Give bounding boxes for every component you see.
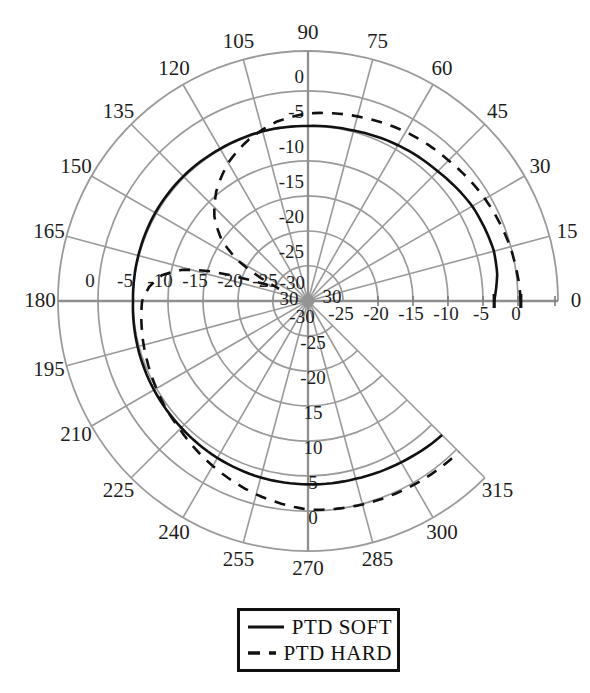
angle-label-240: 240	[158, 520, 190, 544]
angle-label-60: 60	[432, 56, 453, 80]
angle-label-45: 45	[487, 99, 508, 123]
radial-label-bottom: 5	[308, 472, 318, 493]
angle-label-225: 225	[103, 478, 135, 502]
solid-line-swatch	[245, 621, 284, 633]
legend-item-ptd-hard: PTD HARD	[245, 641, 392, 666]
radial-label-right: -15	[398, 303, 423, 324]
radial-label-right: -10	[433, 303, 458, 324]
angle-label-315: 315	[482, 478, 514, 502]
dashed-line-swatch	[245, 647, 276, 659]
radial-label-right: -20	[363, 303, 388, 324]
angle-label-150: 150	[60, 154, 92, 178]
spoke-75deg	[308, 60, 373, 302]
spoke-195deg	[67, 301, 309, 366]
radial-label-bottom: -25	[300, 332, 325, 353]
angle-label-195: 195	[33, 357, 65, 381]
radial-label-top: -20	[279, 206, 304, 227]
angle-label-255: 255	[223, 547, 255, 571]
radial-label-bottom: 15	[304, 402, 323, 423]
angle-label-15: 15	[556, 219, 577, 243]
radial-label-left: -5	[117, 270, 133, 291]
radial-label-top: -5	[288, 101, 304, 122]
legend: PTD SOFT PTD HARD	[237, 608, 400, 672]
radial-label-right: -25	[328, 303, 353, 324]
angle-label-285: 285	[362, 547, 394, 571]
radial-label-bottom: -20	[300, 367, 325, 388]
series-layer	[133, 113, 521, 510]
radial-label-top: 0	[295, 66, 305, 87]
angle-label-300: 300	[426, 520, 458, 544]
angle-label-0: 0	[571, 288, 582, 312]
legend-label-ptd-hard: PTD HARD	[284, 641, 392, 666]
radial-label-bottom-center: -30	[289, 306, 314, 327]
angle-label-75: 75	[367, 29, 388, 53]
radial-label-top: -10	[279, 136, 304, 157]
angle-label-120: 120	[158, 56, 190, 80]
legend-label-ptd-soft: PTD SOFT	[292, 615, 392, 640]
radial-label-right: -5	[473, 303, 489, 324]
radial-label-left: 0	[85, 270, 95, 291]
spoke-255deg	[243, 301, 308, 543]
angle-label-180: 180	[24, 288, 56, 312]
angle-label-270: 270	[292, 556, 324, 580]
polar-plot: 0-5-10-15-20-25-300-5-10-15-20-253030-25…	[0, 0, 590, 600]
radial-label-top: -25	[279, 241, 304, 262]
angle-label-210: 210	[60, 422, 92, 446]
radial-label-bottom: 10	[304, 437, 323, 458]
angle-label-135: 135	[103, 99, 135, 123]
polar-chart-figure: 0-5-10-15-20-25-300-5-10-15-20-253030-25…	[0, 0, 590, 693]
legend-item-ptd-soft: PTD SOFT	[245, 615, 392, 640]
angle-label-30: 30	[530, 154, 551, 178]
spoke-15deg	[308, 236, 550, 301]
radial-label-top: -15	[279, 171, 304, 192]
radial-label-left: -15	[182, 270, 207, 291]
angle-label-105: 105	[223, 29, 255, 53]
angle-label-90: 90	[298, 20, 319, 44]
angle-label-165: 165	[33, 219, 65, 243]
